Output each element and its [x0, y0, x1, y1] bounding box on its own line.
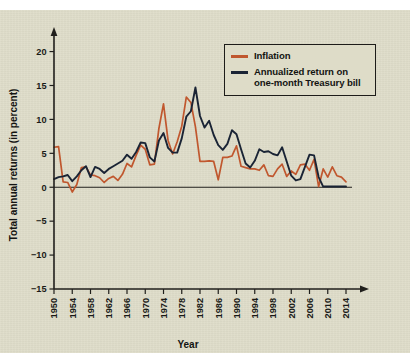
x-tick-label: 1998 — [268, 298, 278, 318]
y-tick-label: 10 — [36, 115, 46, 125]
x-tick-label: 1990 — [232, 298, 242, 318]
x-tick-label: 1958 — [86, 298, 96, 318]
y-tick-label: −5 — [36, 216, 46, 226]
x-tick-label: 1978 — [177, 298, 187, 318]
x-tick-label: 1982 — [195, 298, 205, 318]
x-tick-label: 2002 — [287, 298, 297, 318]
y-tick-label: −15 — [31, 284, 47, 294]
x-tick-label: 1966 — [122, 298, 132, 318]
x-tick-label: 1994 — [250, 297, 260, 318]
x-tick-label: 2010 — [323, 298, 333, 318]
x-tick-label: 1954 — [68, 297, 78, 318]
series-line-treasury-bill — [54, 88, 346, 187]
figure-container: 20151050−5−10−15 19501954195819621966197… — [0, 0, 410, 353]
x-tick-label: 1950 — [49, 298, 59, 318]
x-tick-label: 1970 — [141, 298, 151, 318]
x-tick-label: 1974 — [159, 297, 169, 318]
legend-label-treasury-bill: Annualized return onone-month Treasury b… — [254, 66, 360, 89]
y-axis-arrowhead — [51, 27, 58, 36]
x-tick-label: 2014 — [341, 297, 351, 318]
y-tick-label: −10 — [31, 250, 47, 260]
data-series-group — [54, 88, 346, 192]
x-axis-tick-labels: 1950195419581962196619701974197819821986… — [49, 297, 351, 318]
y-tick-label: 5 — [41, 149, 46, 159]
legend-item-treasury-bill[interactable]: Annualized return onone-month Treasury b… — [231, 66, 368, 89]
x-axis-arrowhead — [360, 286, 369, 293]
legend-item-inflation[interactable]: Inflation — [231, 50, 368, 62]
x-tick-label: 1962 — [104, 298, 114, 318]
x-tick-label: 2006 — [305, 298, 315, 318]
y-axis-tick-labels: 20151050−5−10−15 — [31, 47, 47, 294]
legend-swatch-inflation — [231, 55, 248, 58]
x-tick-label: 1986 — [214, 298, 224, 318]
y-tick-label: 15 — [36, 81, 46, 91]
y-tick-label: 0 — [41, 183, 46, 193]
legend-swatch-treasury-bill — [231, 71, 248, 74]
y-axis-title: Total annual returns (in percent) — [8, 89, 19, 242]
chart-legend: Inflation Annualized return onone-month … — [224, 44, 376, 96]
chart-plate: 20151050−5−10−15 19501954195819621966197… — [0, 10, 410, 353]
y-tick-label: 20 — [36, 47, 46, 57]
legend-label-inflation: Inflation — [254, 50, 290, 62]
x-axis-title: Year — [177, 339, 198, 350]
